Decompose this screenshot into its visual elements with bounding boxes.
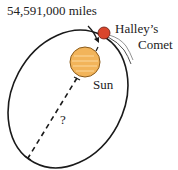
comet-label-line1: Halley’s [115, 22, 158, 36]
unknown-distance-line [28, 78, 77, 158]
halley-orbit-diagram: 54,591,000 miles Halley’s Comet Sun ? [0, 0, 178, 170]
unknown-distance-label: ? [60, 113, 66, 127]
comet-label-line2: Comet [138, 38, 173, 52]
sun-icon [70, 47, 100, 77]
distance-label: 54,591,000 miles [7, 4, 97, 18]
sun-label: Sun [93, 78, 113, 92]
